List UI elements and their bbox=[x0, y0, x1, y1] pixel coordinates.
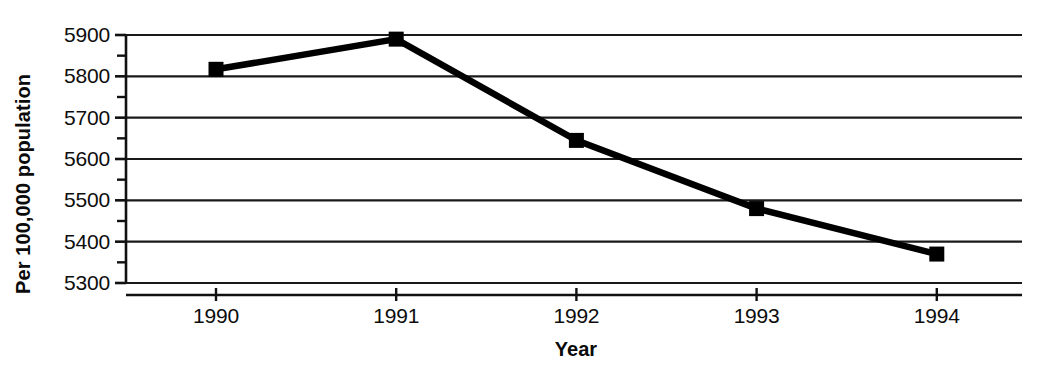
y-tick-label: 5800 bbox=[64, 64, 110, 88]
data-point-marker bbox=[749, 201, 764, 216]
x-tick-label: 1992 bbox=[553, 304, 599, 328]
data-point-marker bbox=[389, 32, 404, 47]
data-point-marker bbox=[209, 62, 224, 77]
data-point-marker bbox=[569, 133, 584, 148]
major-tick-group bbox=[115, 35, 126, 283]
y-tick-label: 5600 bbox=[64, 147, 110, 171]
y-axis-title: Per 100,000 population bbox=[12, 74, 35, 294]
y-tick-label: 5400 bbox=[64, 230, 110, 254]
gridline-group bbox=[126, 35, 1022, 283]
data-point-marker bbox=[929, 247, 944, 262]
y-tick-label: 5700 bbox=[64, 106, 110, 130]
x-tick-label: 1990 bbox=[193, 304, 239, 328]
x-tick-label: 1993 bbox=[734, 304, 780, 328]
x-tick-label: 1991 bbox=[373, 304, 419, 328]
y-tick-label: 5900 bbox=[64, 23, 110, 47]
x-axis-title: Year bbox=[555, 338, 597, 361]
y-tick-label: 5300 bbox=[64, 271, 110, 295]
x-tick-label: 1994 bbox=[914, 304, 960, 328]
line-chart-plot bbox=[0, 0, 1046, 377]
chart-figure: 5900580057005600550054005300 19901991199… bbox=[0, 0, 1046, 377]
y-tick-label: 5500 bbox=[64, 188, 110, 212]
